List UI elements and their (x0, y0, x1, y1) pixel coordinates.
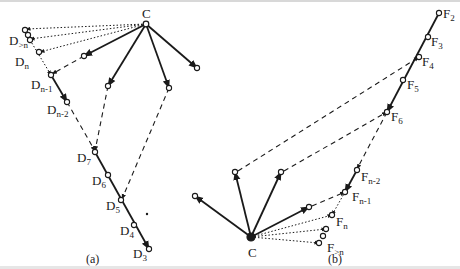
node-d7 (92, 149, 97, 154)
node-d6 (105, 172, 110, 177)
node-d4 (131, 222, 136, 227)
node-label: Fn (336, 214, 348, 231)
node-fn-2 (354, 167, 359, 172)
panel-b: CF2F3F4F5F6Fn-2Fn-1FnF>n(b) (192, 6, 454, 266)
node-label: F6 (391, 109, 403, 126)
node-f5 (400, 77, 405, 82)
center-node (247, 233, 255, 241)
node-t4 (306, 204, 311, 209)
dotted-edge (251, 215, 332, 237)
dashed-edge (67, 102, 95, 151)
node-f6 (384, 109, 389, 114)
node-t3 (278, 169, 283, 174)
node-label: Fn-2 (361, 169, 380, 186)
solid-edge (251, 207, 309, 237)
dotted-edge (40, 24, 146, 52)
recursion-diagram: CD>nDnDn-1Dn-2D7D6D5D4D3(a) CF2F3F4F5F6F… (0, 0, 460, 269)
panel-a: CD>nDnDn-1Dn-2D7D6D5D4D3(a) (9, 6, 200, 266)
node-t2 (232, 169, 237, 174)
node-label: F3 (431, 34, 443, 51)
solid-edge (51, 75, 67, 102)
node-label: Fn-1 (352, 189, 371, 206)
node-label: D7 (77, 150, 91, 167)
node-label: D6 (92, 173, 106, 190)
node-f4 (416, 54, 421, 59)
node-dgtn_a (22, 27, 27, 32)
dotted-edge (30, 40, 51, 75)
node-d3 (146, 246, 151, 251)
node-f2 (436, 10, 441, 15)
dotted-edge (251, 237, 319, 243)
node-fn (329, 212, 334, 217)
dotted-edge (332, 192, 345, 215)
dashed-edge (95, 86, 108, 151)
dashed-edge (52, 56, 84, 74)
dashed-edge (312, 192, 345, 206)
node-label: F2 (443, 6, 455, 23)
node-s1 (81, 53, 86, 58)
dashed-edge (122, 88, 169, 199)
node-fgtn_a (323, 226, 328, 231)
node-dgtn_c (27, 37, 32, 42)
dotted-edge (30, 24, 146, 39)
node-label: Dn-1 (31, 77, 52, 94)
center-label: C (248, 245, 257, 260)
center-label: C (142, 6, 151, 21)
node-s4 (194, 65, 199, 70)
center-node (143, 21, 149, 27)
node-label: Dn (15, 54, 29, 71)
node-fgtn_b (320, 233, 325, 238)
panel-caption: (b) (328, 252, 342, 266)
dashed-edge (284, 112, 387, 171)
stray-dot (146, 213, 148, 215)
node-dgtn_b (25, 32, 30, 37)
node-f3 (425, 34, 430, 39)
node-fgtn_c (316, 240, 321, 245)
node-label: F5 (407, 77, 419, 94)
node-dn (36, 49, 41, 54)
node-s2 (105, 83, 110, 88)
node-s3 (166, 85, 171, 90)
node-label: F4 (422, 54, 434, 71)
node-d5 (118, 197, 123, 202)
panel-caption: (a) (86, 252, 99, 266)
node-t1 (192, 193, 197, 198)
solid-edge (251, 172, 281, 237)
node-label: D3 (133, 246, 147, 263)
node-dn-2 (64, 99, 69, 104)
node-fn-1 (342, 189, 347, 194)
node-dn-1 (48, 72, 53, 77)
